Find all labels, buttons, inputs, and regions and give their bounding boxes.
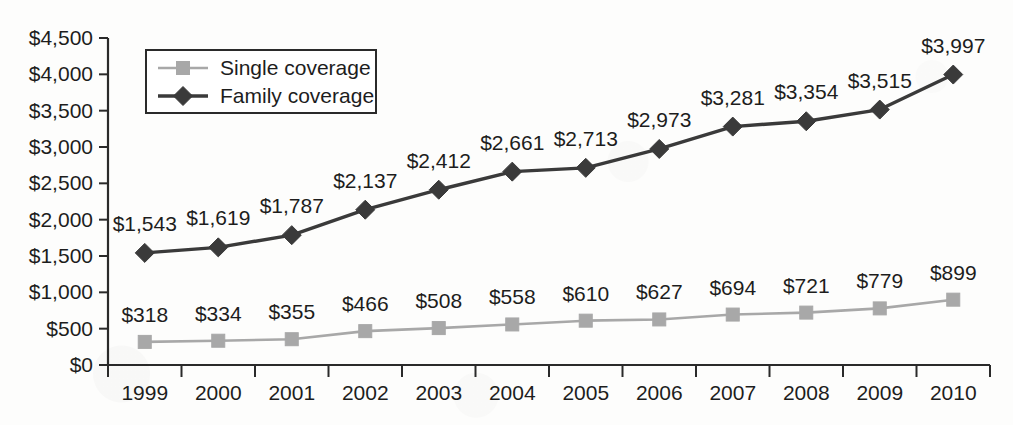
data-point-label: $3,997: [921, 34, 985, 57]
data-point-label: $2,661: [480, 131, 544, 154]
chart-page: $0$500$1,000$1,500$2,000$2,500$3,000$3,5…: [0, 0, 1013, 425]
data-point-label: $721: [783, 274, 830, 297]
x-tick-label: 2009: [856, 381, 903, 404]
data-point-label: $2,412: [407, 149, 471, 172]
line-chart: $0$500$1,000$1,500$2,000$2,500$3,000$3,5…: [0, 0, 1013, 425]
data-point-label: $1,787: [260, 194, 324, 217]
y-tick-label: $1,000: [29, 280, 93, 303]
data-point-marker: [576, 158, 595, 177]
series-line: [145, 300, 954, 342]
x-tick-label: 2002: [342, 381, 389, 404]
data-point-marker: [356, 200, 375, 219]
y-axis-ticks: $0$500$1,000$1,500$2,000$2,500$3,000$3,5…: [29, 26, 108, 376]
data-point-marker: [579, 314, 592, 327]
x-tick-label: 2007: [709, 381, 756, 404]
data-point-marker: [800, 306, 813, 319]
data-point-label: $508: [415, 289, 462, 312]
data-point-label: $627: [636, 280, 683, 303]
y-tick-label: $2,500: [29, 171, 93, 194]
data-point-marker: [870, 100, 889, 119]
data-point-marker: [726, 308, 739, 321]
data-point-marker: [212, 334, 225, 347]
x-tick-label: 2000: [195, 381, 242, 404]
data-point-label: $2,713: [554, 127, 618, 150]
y-tick-label: $1,500: [29, 244, 93, 267]
data-point-label: $3,281: [701, 86, 765, 109]
x-axis-ticks: 1999200020012002200320042005200620072008…: [108, 365, 990, 404]
data-point-marker: [429, 180, 448, 199]
data-point-marker: [209, 238, 228, 257]
data-point-label: $899: [930, 261, 977, 284]
x-tick-label: 2005: [562, 381, 609, 404]
data-point-marker: [135, 243, 154, 262]
y-tick-label: $500: [46, 317, 93, 340]
data-point-marker: [650, 139, 669, 158]
data-point-label: $355: [268, 300, 315, 323]
x-tick-label: 2008: [783, 381, 830, 404]
data-point-marker: [947, 293, 960, 306]
data-point-marker: [506, 318, 519, 331]
legend-label-family-coverage[interactable]: Family coverage: [220, 84, 374, 107]
data-point-label: $334: [195, 302, 242, 325]
data-point-label: $694: [709, 276, 756, 299]
data-point-marker: [797, 112, 816, 131]
y-tick-label: $3,500: [29, 99, 93, 122]
data-point-marker: [432, 322, 445, 335]
x-tick-label: 2006: [636, 381, 683, 404]
data-point-marker: [285, 333, 298, 346]
data-point-label: $1,619: [186, 206, 250, 229]
data-point-marker: [944, 65, 963, 84]
data-point-label: $558: [489, 285, 536, 308]
data-point-label: $3,515: [848, 69, 912, 92]
data-point-label: $1,543: [113, 212, 177, 235]
data-point-marker: [359, 325, 372, 338]
y-tick-label: $4,000: [29, 62, 93, 85]
legend-label-single-coverage[interactable]: Single coverage: [220, 56, 371, 79]
y-tick-label: $2,000: [29, 208, 93, 231]
data-point-label: $3,354: [774, 80, 839, 103]
x-tick-label: 2001: [268, 381, 315, 404]
x-tick-label: 2010: [930, 381, 977, 404]
data-point-marker: [723, 117, 742, 136]
data-point-label: $2,137: [333, 169, 397, 192]
data-point-marker: [138, 335, 151, 348]
data-point-marker: [653, 313, 666, 326]
data-point-marker: [282, 226, 301, 245]
chart-legend[interactable]: Single coverageFamily coverage: [146, 50, 376, 113]
x-tick-label: 2004: [489, 381, 536, 404]
data-point-label: $466: [342, 292, 389, 315]
y-tick-label: $3,000: [29, 135, 93, 158]
y-tick-label: $0: [70, 353, 93, 376]
data-point-label: $610: [562, 282, 609, 305]
x-tick-label: 2003: [415, 381, 462, 404]
data-point-marker: [177, 62, 190, 75]
x-tick-label: 1999: [121, 381, 168, 404]
data-point-marker: [503, 162, 522, 181]
data-point-label: $779: [856, 269, 903, 292]
y-tick-label: $4,500: [29, 26, 93, 49]
data-point-marker: [873, 302, 886, 315]
data-point-label: $318: [121, 303, 168, 326]
data-point-label: $2,973: [627, 108, 691, 131]
